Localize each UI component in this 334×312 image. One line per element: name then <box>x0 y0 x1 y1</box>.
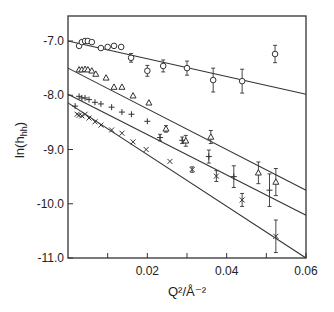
circle-marker <box>272 51 278 57</box>
series-circles <box>68 38 306 94</box>
circle-marker <box>118 44 124 50</box>
plus-marker <box>109 104 115 110</box>
circle-marker <box>210 77 216 83</box>
series-plus <box>68 93 306 215</box>
circle-marker <box>105 44 111 50</box>
plus-marker <box>119 109 125 115</box>
y-tick-label: -9.0 <box>43 143 64 157</box>
y-tick-label: -7.0 <box>43 34 64 48</box>
series-crosses <box>68 103 306 258</box>
circle-marker <box>184 65 190 71</box>
cross-marker <box>144 147 149 152</box>
plus-marker <box>231 174 237 180</box>
plus-marker <box>206 154 212 160</box>
series-layer <box>68 38 306 258</box>
circle-marker <box>160 63 166 69</box>
plot-frame <box>68 16 306 258</box>
circle-marker <box>239 78 245 84</box>
triangle-marker <box>255 170 261 175</box>
triangle-marker <box>103 75 109 80</box>
x-tick-label: 0.04 <box>215 264 239 278</box>
triangle-marker <box>130 93 136 98</box>
plus-marker <box>92 99 98 105</box>
y-tick-label: -8.0 <box>43 88 64 102</box>
plus-marker <box>267 187 273 193</box>
x-tick-label: 0.02 <box>136 264 160 278</box>
cross-marker <box>167 159 172 164</box>
y-axis-title-sub: hh <box>19 126 29 136</box>
plus-marker <box>128 111 134 117</box>
triangle-marker <box>119 84 125 89</box>
triangle-marker <box>163 126 169 131</box>
fit-line <box>68 103 306 258</box>
circle-marker <box>145 68 151 74</box>
cross-marker <box>119 131 124 136</box>
y-tick-label: -10.0 <box>37 197 65 211</box>
triangle-marker <box>111 84 117 89</box>
y-axis-title: ln(hhh) <box>12 122 29 158</box>
series-triangles <box>68 66 306 196</box>
triangle-marker <box>146 100 152 105</box>
y-axis-title-main: ln(h <box>12 136 27 158</box>
cross-marker <box>131 139 136 144</box>
circle-marker <box>128 55 134 61</box>
plus-marker <box>144 118 150 124</box>
circle-marker <box>89 39 95 45</box>
x-axis-title: Q²/Å⁻² <box>168 284 207 299</box>
circle-marker <box>111 43 117 49</box>
fit-line <box>68 94 306 215</box>
plus-marker <box>98 101 104 107</box>
x-tick-label: 0.06 <box>294 264 318 278</box>
triangle-marker <box>208 134 214 139</box>
circle-marker <box>98 45 104 51</box>
triangle-marker <box>273 179 279 184</box>
chart: 0.020.040.06 -7.0-8.0-9.0-10.0-11.0 Q²/Å… <box>0 0 334 312</box>
x-axis-ticks: 0.020.040.06 <box>108 253 318 278</box>
y-tick-label: -11.0 <box>38 251 65 265</box>
